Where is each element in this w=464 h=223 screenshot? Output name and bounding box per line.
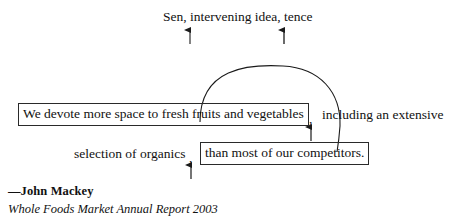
second-clause-box: than most of our competitors. bbox=[200, 142, 369, 165]
attribution-author: —John Mackey bbox=[8, 185, 94, 198]
comma-before-second-clause: , bbox=[189, 151, 192, 165]
intervening-idea-label: Sen, intervening idea, tence bbox=[163, 10, 313, 24]
grammar-diagram-figure: Sen, intervening idea, tence We devo bbox=[0, 0, 464, 223]
main-clause-tail-text: including an extensive bbox=[322, 108, 443, 122]
attribution-source: Whole Foods Market Annual Report 2003 bbox=[8, 203, 218, 216]
comma-after-main-clause: , bbox=[309, 112, 312, 126]
main-clause-box: We devote more space to fresh fruits and… bbox=[18, 103, 309, 126]
second-line-lead-text: selection of organics bbox=[74, 147, 185, 161]
